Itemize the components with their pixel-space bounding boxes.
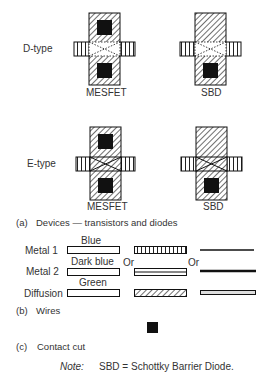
or-label-2: Or: [188, 257, 199, 268]
e-type-sbd-label: SBD: [203, 201, 224, 212]
wire-row-metal-1: [68, 247, 255, 254]
metal-2-label: Metal 2: [26, 266, 59, 277]
caption-c-letter: (c): [16, 341, 27, 352]
caption-a-letter: (a): [16, 217, 28, 228]
metal-1-color-label: Blue: [81, 235, 101, 246]
note-text: SBD = Schottky Barrier Diode.: [99, 361, 234, 372]
d-type-sbd-label: SBD: [201, 87, 222, 98]
e-type-mesfet-symbol: [76, 127, 135, 200]
note-label: Note:: [60, 361, 84, 372]
wire-row-diffusion: [68, 290, 256, 297]
or-label-1: Or: [123, 257, 134, 268]
d-type-label: D-type: [23, 43, 52, 54]
metal-2-color-label: Dark blue: [71, 256, 114, 267]
contact-cut-icon: [97, 63, 112, 78]
metal-1-label: Metal 1: [25, 245, 58, 256]
e-type-mesfet-label: MESFET: [87, 201, 128, 212]
contact-cut-icon: [97, 20, 112, 35]
layout-diagram: [0, 0, 266, 382]
wire-row-metal-2: [68, 269, 257, 276]
diffusion-color-label: Green: [79, 277, 107, 288]
contact-cut-icon: [98, 134, 113, 149]
caption-b-letter: (b): [16, 305, 28, 316]
caption-b-text: Wires: [36, 305, 60, 316]
caption-c-text: Contact cut: [37, 341, 85, 352]
contact-cut-icon: [204, 178, 219, 193]
contact-cut-icon: [203, 63, 218, 78]
d-type-mesfet-label: MESFET: [86, 87, 127, 98]
contact-cut-symbol: [147, 322, 158, 333]
d-type-sbd-symbol: [180, 13, 241, 85]
e-type-sbd-symbol: [181, 127, 242, 200]
caption-a-text: Devices — transistors and diodes: [36, 217, 178, 228]
e-type-label: E-type: [27, 158, 56, 169]
d-type-mesfet-symbol: [74, 13, 135, 85]
contact-cut-icon: [98, 178, 113, 193]
diffusion-label: Diffusion: [24, 288, 63, 299]
